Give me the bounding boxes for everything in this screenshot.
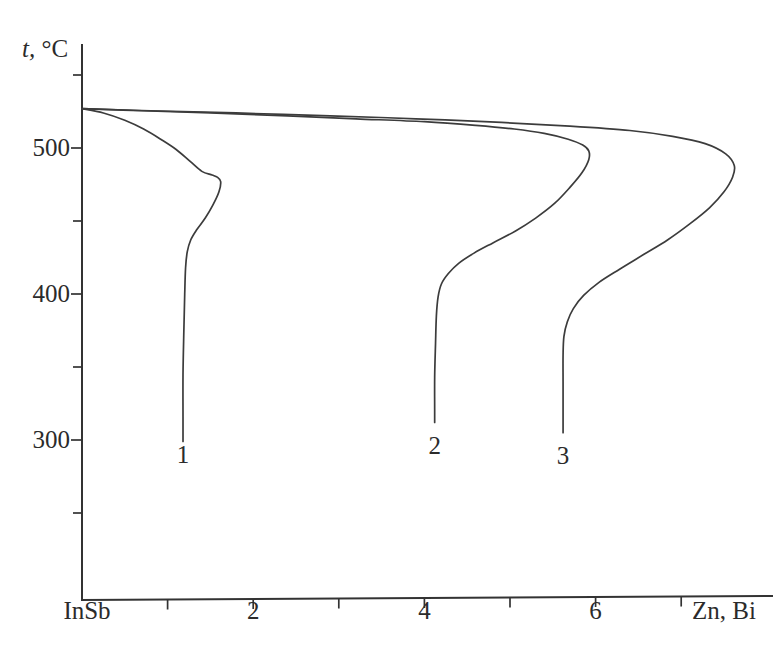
- x-tick-label-4: 4: [394, 598, 454, 623]
- y-tick-label-400: 400: [0, 281, 70, 306]
- plot-area: [0, 0, 779, 657]
- y-axis-title: t, °C: [22, 36, 68, 61]
- x-axis-origin-label: InSb: [52, 598, 122, 623]
- y-axis-title-symbol: t,: [22, 35, 35, 62]
- x-axis-title: Zn, Bi: [692, 598, 756, 623]
- curve-label-3: 3: [548, 443, 578, 468]
- x-tick-label-6: 6: [566, 598, 626, 623]
- y-tick-label-500: 500: [0, 135, 70, 160]
- y-tick-label-300: 300: [0, 427, 70, 452]
- chart-figure: t, °C Zn, Bi InSb 500400300 246 123: [0, 0, 779, 657]
- curve-2: [82, 109, 590, 423]
- curves-group: [82, 109, 735, 442]
- curve-label-1: 1: [168, 442, 198, 467]
- curve-1: [82, 109, 221, 442]
- axes-group: [82, 45, 772, 600]
- curve-label-2: 2: [420, 433, 450, 458]
- y-axis-title-unit: °C: [41, 35, 68, 62]
- x-tick-label-2: 2: [223, 598, 283, 623]
- curve-3: [82, 109, 735, 433]
